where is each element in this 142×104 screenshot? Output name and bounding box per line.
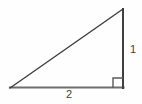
side-label-base: 2 <box>66 89 72 100</box>
right-triangle-figure: 1 2 <box>0 0 142 104</box>
triangle-hypotenuse-line <box>10 9 123 88</box>
side-label-vertical: 1 <box>130 44 136 55</box>
